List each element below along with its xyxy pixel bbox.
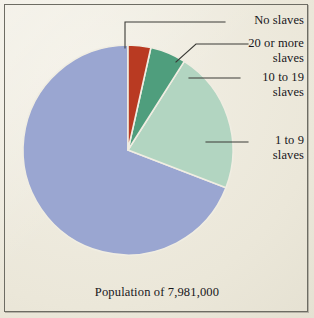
chart-caption: Population of 7,981,000	[0, 285, 314, 300]
pie-chart-figure: No slaves 20 or more slaves 10 to 19 sla…	[0, 0, 314, 318]
callout-label-no-slaves: No slaves	[184, 13, 304, 28]
callout-label-20-or-more-slaves: 20 or more slaves	[184, 36, 304, 65]
callout-label-1-to-9-slaves: 1 to 9 slaves	[184, 133, 304, 162]
callout-label-10-to-19-slaves: 10 to 19 slaves	[184, 70, 304, 99]
